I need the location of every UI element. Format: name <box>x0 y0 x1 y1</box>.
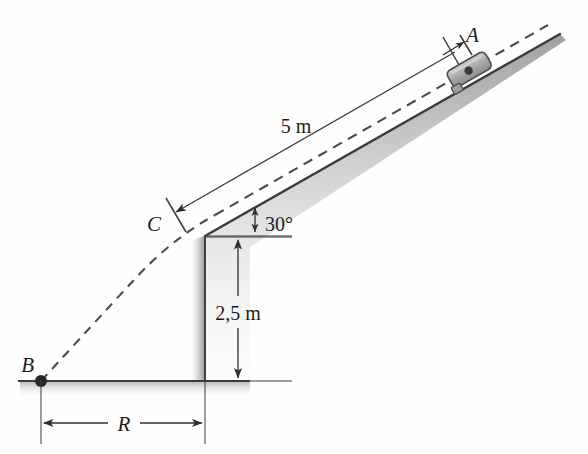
physics-diagram-svg: 5 m 30° 2,5 m R <box>0 0 588 454</box>
incline-surface-line <box>205 34 560 236</box>
label-range: R <box>117 412 131 436</box>
figure-container: 5 m 30° 2,5 m R <box>0 0 588 454</box>
ground-shading <box>20 381 250 396</box>
label-point-c: C <box>147 212 162 236</box>
incline-motion-dashed-line <box>215 25 548 215</box>
label-incline-angle: 30° <box>265 213 293 235</box>
label-incline-length: 5 m <box>281 115 312 137</box>
dimension-tick-c <box>166 198 186 232</box>
trajectory-parabola <box>41 215 215 381</box>
incline-shading <box>205 34 566 381</box>
label-wall-height: 2,5 m <box>215 302 261 324</box>
label-point-a: A <box>464 23 479 47</box>
wall-shading <box>191 236 205 381</box>
label-point-b: B <box>21 353 34 377</box>
